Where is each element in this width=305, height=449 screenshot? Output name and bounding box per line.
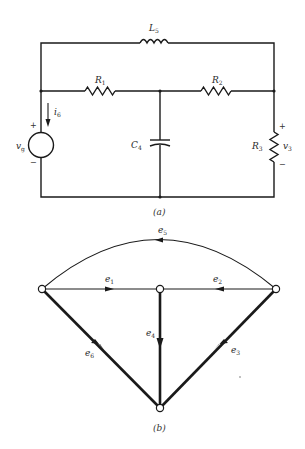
arrow-e1 [105, 287, 114, 292]
label-l5: L5 [148, 23, 159, 34]
label-vg-plus: + [30, 121, 37, 130]
label-v3-minus: − [279, 160, 286, 169]
label-vg: vg [16, 141, 25, 153]
label-e1: e1 [105, 274, 114, 285]
label-v3: v3 [283, 141, 292, 152]
node-center [156, 285, 163, 292]
wire-top-left [41, 43, 140, 91]
arrow-e5 [155, 238, 163, 243]
edge-e3 [160, 289, 276, 408]
node-right [272, 285, 279, 292]
wire-right-lower [160, 162, 274, 197]
label-c4: C4 [131, 140, 142, 151]
node-bottom [156, 404, 163, 411]
stray-mark [239, 376, 240, 377]
resistor-r1 [85, 87, 115, 95]
graph-diagram: e5 e1 e2 e4 e6 e3 (b) [38, 225, 279, 433]
voltage-source-vg [29, 133, 54, 158]
caption-b: (b) [153, 423, 166, 433]
label-v3-plus: + [279, 122, 286, 131]
arrow-head-i6 [46, 119, 51, 127]
junction-bottom [158, 195, 161, 198]
label-e5: e5 [158, 225, 167, 236]
junction-left [39, 89, 42, 92]
arrow-e4 [157, 338, 164, 349]
label-e4: e4 [146, 328, 155, 339]
junction-right [272, 89, 275, 92]
arrow-e2 [215, 287, 224, 292]
label-i6: i6 [54, 107, 61, 118]
inductor-l5 [140, 40, 168, 44]
label-e3: e3 [231, 345, 240, 356]
figure-canvas: L5 R1 R2 R3 C4 vg + − i6 v3 + − (a) [0, 0, 305, 449]
edge-e5 [42, 240, 276, 290]
resistor-r2 [201, 87, 231, 95]
junction-center [158, 89, 161, 92]
label-vg-minus: − [30, 158, 37, 167]
caption-a: (a) [153, 207, 166, 217]
resistor-r3 [270, 132, 278, 162]
label-r3: R3 [251, 141, 263, 152]
edge-e6 [42, 289, 160, 408]
label-r1: R1 [94, 75, 106, 86]
label-e6: e6 [85, 348, 94, 359]
label-e2: e2 [213, 274, 222, 285]
wire-left-lower [41, 158, 160, 198]
circuit-diagram: L5 R1 R2 R3 C4 vg + − i6 v3 + − (a) [16, 23, 292, 217]
label-r2: R2 [211, 75, 223, 86]
node-left [38, 285, 45, 292]
